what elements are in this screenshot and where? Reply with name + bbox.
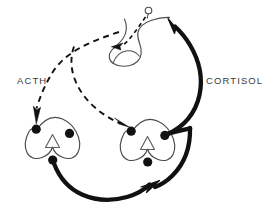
adrenal-right-node-bottom — [143, 157, 152, 166]
adrenal-left-outline — [25, 117, 79, 158]
diagram-canvas — [0, 0, 266, 212]
label-acth: ACTH — [17, 76, 47, 86]
adrenal-left-node-top-left — [32, 125, 41, 134]
pituitary-left-contour — [109, 19, 133, 66]
adrenal-right-inner-triangle — [141, 137, 155, 150]
cortisol-left-to-right-arrow — [54, 164, 160, 200]
pituitary-gland — [109, 7, 169, 66]
cortisol-to-pituitary-arrow — [166, 19, 201, 136]
cortisol-connector-junction — [167, 128, 191, 134]
pituitary-inner-contour — [113, 51, 139, 63]
adrenal-right-outline — [120, 119, 174, 160]
adrenal-left-inner-triangle — [46, 135, 60, 148]
acth-right-arrowhead-icon — [115, 118, 131, 128]
acth-left-arrowhead-icon — [33, 106, 40, 124]
acth-left-dashed-path — [37, 32, 120, 109]
pituitary-right-contour — [134, 17, 170, 64]
hpa-axis-diagram: ACTH CORTISOL — [0, 0, 266, 212]
hormone-circle-icon — [145, 7, 152, 14]
adrenal-left-node-top-right — [65, 129, 74, 138]
label-cortisol: CORTISOL — [206, 76, 263, 86]
adrenal-gland-left — [25, 117, 79, 164]
cortisol-up-arrowhead-icon — [168, 19, 181, 35]
cortisol-bottom-thick-path — [54, 164, 150, 200]
hormone-circle-stem — [147, 14, 148, 19]
cortisol-up-thick-path — [166, 27, 201, 136]
acth-to-right-adrenal-arrow — [71, 47, 130, 128]
acth-right-dashed-path — [71, 47, 119, 124]
adrenal-right-node-top-left — [127, 127, 136, 136]
